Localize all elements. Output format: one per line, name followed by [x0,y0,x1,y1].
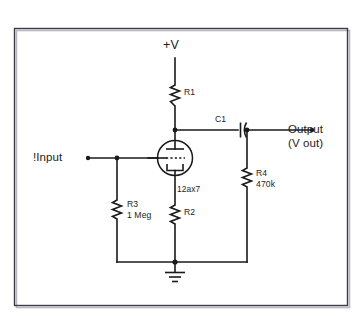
resistor-r1-symbol [171,85,180,106]
r4-branch [243,130,252,262]
resistor-r4-label: R4 [256,168,267,178]
input-label: !Input [33,151,62,165]
r2-branch [171,205,180,262]
resistor-r3-value: 1 Meg [127,210,151,220]
r3-branch [113,158,122,262]
resistor-r4-value: 470k [256,179,275,189]
tube-designation-label: 12ax7 [177,185,200,195]
supply-label: +V [163,38,179,53]
resistor-r3-symbol [113,200,122,219]
input-net [86,156,158,161]
output-label: Output [288,123,323,137]
resistor-r2-label: R2 [184,207,195,217]
resistor-r4-symbol [243,168,252,187]
resistor-r1-label: R1 [184,87,195,97]
resistor-r3-label: R3 [127,199,138,209]
schematic-diagram: +V !Input Output (V out) R1 R2 R3 1 Meg … [0,0,361,325]
terminal-dot-input [86,156,90,160]
ground-symbol [165,262,185,282]
tube-cathode-bracket [167,164,183,171]
output-sublabel: (V out) [288,137,323,151]
resistor-r2-symbol [171,205,180,224]
diagram-frame [15,29,348,306]
capacitor-c1-label: C1 [215,114,226,124]
